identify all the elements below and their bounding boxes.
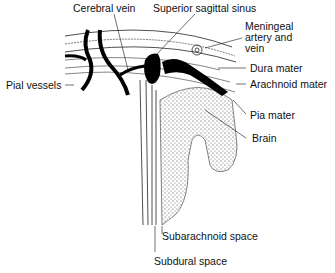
label-cerebral-vein: Cerebral vein xyxy=(73,3,135,14)
label-subarachnoid-space: Subarachnoid space xyxy=(162,231,258,242)
meninges-diagram: Cerebral vein Superior sagittal sinus Me… xyxy=(0,0,335,273)
label-brain: Brain xyxy=(252,133,277,144)
label-superior-sagittal-sinus: Superior sagittal sinus xyxy=(153,3,256,14)
label-arachnoid-mater: Arachnoid mater xyxy=(250,79,327,90)
label-subdural-space: Subdural space xyxy=(154,256,227,267)
label-pial-vessels: Pial vessels xyxy=(6,80,61,91)
label-pia-mater: Pia mater xyxy=(250,110,295,121)
label-meningeal-3: vein xyxy=(245,43,264,54)
label-dura-mater: Dura mater xyxy=(250,63,303,74)
